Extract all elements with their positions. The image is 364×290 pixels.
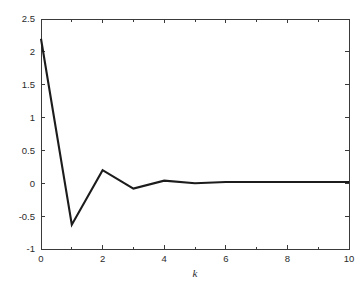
y-tick-label: -0.5 [19,211,35,222]
x-tick-label: 8 [285,253,290,264]
y-tick-label: 1.5 [22,79,35,90]
y-tick-label: 0 [30,178,35,189]
x-axis-title: k [193,267,199,279]
line-chart: -1-0.500.511.522.5 0246810 k [0,0,364,290]
y-axis-tick-labels: -1-0.500.511.522.5 [19,13,35,254]
y-tick-label: 2 [30,46,35,57]
y-tick-label: -1 [27,243,35,254]
y-tick-label: 1 [30,112,35,123]
x-tick-label: 4 [162,253,167,264]
y-tick-label: 0.5 [22,145,35,156]
plot-area-background [41,19,349,249]
x-tick-label: 6 [223,253,228,264]
x-tick-label: 0 [38,253,43,264]
x-tick-label: 10 [344,253,355,264]
figure-canvas: -1-0.500.511.522.5 0246810 k [0,0,364,290]
x-axis-tick-labels: 0246810 [38,253,354,264]
x-tick-label: 2 [100,253,105,264]
y-tick-label: 2.5 [22,13,35,24]
